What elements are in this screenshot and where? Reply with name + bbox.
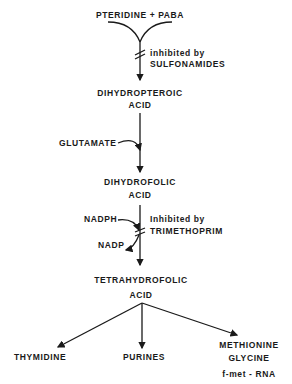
glycine-label: GLYCINE: [228, 353, 269, 363]
dihydropteroic-label: DIHYDROPTEROIC: [97, 88, 182, 98]
trimethoprim-inhibition-line2: TRIMETHOPRIM: [150, 226, 223, 236]
nadph-label: NADPH: [84, 214, 117, 224]
nadph-curve: [118, 220, 139, 230]
merge-curve-right: [140, 22, 172, 42]
nadp-label: NADP: [98, 240, 125, 250]
sulfonamides-inhibition-line1: inhibited by: [150, 48, 205, 58]
methionine-label: METHIONINE: [219, 340, 278, 350]
glutamate-label: GLUTAMATE: [59, 138, 117, 148]
trimethoprim-inhibition-line1: Inhibited by: [150, 214, 205, 224]
fmet-rna-label: f-met - RNA: [222, 369, 275, 379]
dihydrofolic-label: DIHYDROFOLIC: [104, 177, 176, 187]
thymidine-label: THYMIDINE: [14, 352, 66, 362]
tetrahydrofolic-acid-label: ACID: [129, 290, 152, 300]
arrow-to-thymidine: [58, 303, 142, 347]
dihydrofolic-acid-label: ACID: [128, 190, 151, 200]
dihydropteroic-acid-label: ACID: [128, 100, 151, 110]
arrow-to-methionine: [142, 303, 237, 335]
glutamate-curve: [118, 141, 140, 150]
merge-curve-left: [108, 22, 140, 42]
tetrahydrofolic-label: TETRAHYDROFOLIC: [94, 275, 188, 285]
purines-label: PURINES: [123, 352, 165, 362]
nadp-curve: [126, 235, 139, 250]
pteridine-paba-label: PTERIDINE + PABA: [96, 10, 184, 20]
sulfonamides-inhibition-line2: SULFONAMIDES: [150, 59, 225, 69]
